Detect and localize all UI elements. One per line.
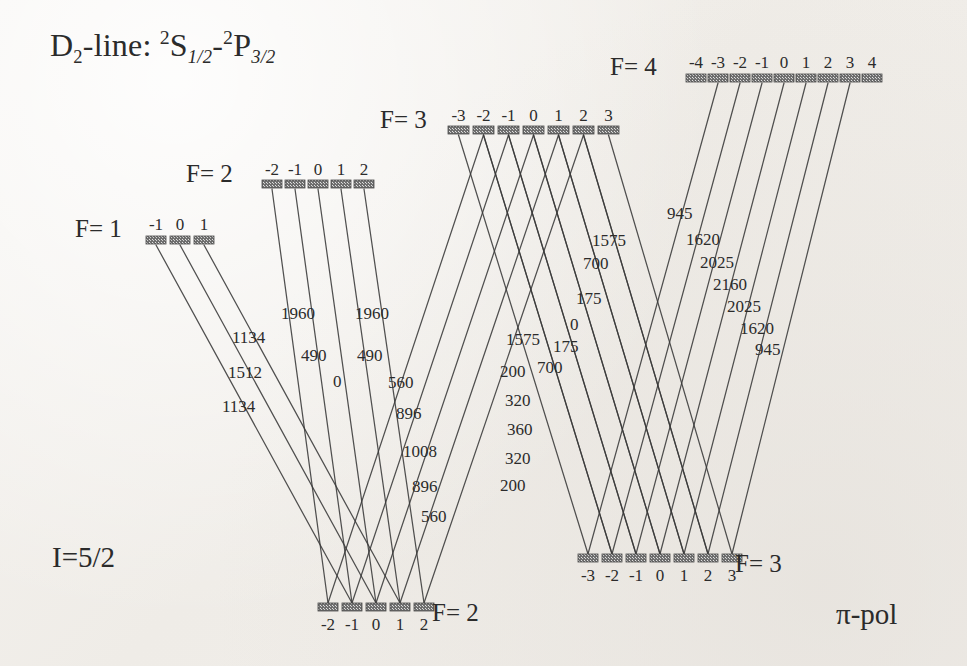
sublevel-m-label-lower-f3--2: -2 xyxy=(605,567,619,584)
transition-strength-f4-to-f3-0: 2160 xyxy=(713,276,747,293)
transition-strength-f3-to-f3-inner-1: 320 xyxy=(505,450,531,467)
sublevel-m-label-lower-f3-3: 3 xyxy=(728,567,737,584)
magnetic-sublevel-bar[interactable] xyxy=(598,126,619,134)
magnetic-sublevel-bar[interactable] xyxy=(774,74,794,82)
transition-strength-f2-to-f2--1: 490 xyxy=(301,347,327,364)
magnetic-sublevel-bar[interactable] xyxy=(818,74,838,82)
sublevel-m-label-lower-f2--1: -1 xyxy=(345,616,359,633)
level-label-upper-f2: F= 2 xyxy=(186,161,233,186)
magnetic-sublevel-bar[interactable] xyxy=(578,554,598,562)
sublevel-m-label-upper-f1-1: 1 xyxy=(200,216,209,233)
transition-strength-f3-to-f3-0: 0 xyxy=(570,316,579,333)
sublevel-m-label-lower-f3--1: -1 xyxy=(629,567,643,584)
sublevel-m-label-upper-f3--3: -3 xyxy=(451,107,465,124)
sublevel-m-label-lower-f2-0: 0 xyxy=(372,616,381,633)
level-label-upper-f4: F= 4 xyxy=(610,54,657,79)
transition-strength-f3-to-f3-inner--1: 320 xyxy=(505,392,531,409)
sublevel-m-label-upper-f4-2: 2 xyxy=(824,54,833,71)
magnetic-sublevel-bar[interactable] xyxy=(602,554,622,562)
transition-strength-f4-to-f3--3: 945 xyxy=(667,205,693,222)
magnetic-sublevel-bar[interactable] xyxy=(708,74,728,82)
sublevel-m-label-upper-f4--2: -2 xyxy=(733,54,747,71)
transition-line xyxy=(180,245,376,603)
magnetic-sublevel-bar[interactable] xyxy=(752,74,772,82)
magnetic-sublevel-bar[interactable] xyxy=(698,554,718,562)
sublevel-m-label-lower-f2--2: -2 xyxy=(321,616,335,633)
transition-strength-f3-to-f3-1: 175 xyxy=(576,290,602,307)
magnetic-sublevel-bar[interactable] xyxy=(573,126,594,134)
magnetic-sublevel-bar[interactable] xyxy=(523,126,544,134)
transition-line xyxy=(352,135,509,603)
magnetic-sublevel-bar[interactable] xyxy=(331,180,351,188)
transition-strength-f3-to-f2-1: 896 xyxy=(412,478,438,495)
sublevel-m-label-upper-f3--2: -2 xyxy=(476,107,490,124)
transition-strength-f1-to-f2--1: 1134 xyxy=(232,329,265,346)
magnetic-sublevel-bar[interactable] xyxy=(862,74,882,82)
transition-line xyxy=(400,135,559,603)
magnetic-sublevel-bar[interactable] xyxy=(414,603,434,611)
sublevel-m-label-upper-f4-3: 3 xyxy=(846,54,855,71)
sublevel-m-label-upper-f4--3: -3 xyxy=(711,54,725,71)
level-label-upper-f3: F= 3 xyxy=(380,107,427,132)
transition-line xyxy=(272,189,328,603)
sublevel-m-label-upper-f2-0: 0 xyxy=(314,161,323,178)
transition-line xyxy=(295,189,352,603)
transition-strength-f3-to-f2-2: 560 xyxy=(421,508,447,525)
magnetic-sublevel-bar[interactable] xyxy=(308,180,328,188)
magnetic-sublevel-bar[interactable] xyxy=(318,603,338,611)
magnetic-sublevel-bar[interactable] xyxy=(498,126,519,134)
magnetic-sublevel-bar[interactable] xyxy=(650,554,670,562)
transition-strength-f3-to-f2-0: 1008 xyxy=(403,443,437,460)
sublevel-m-label-upper-f4-4: 4 xyxy=(868,54,877,71)
magnetic-sublevel-bar[interactable] xyxy=(674,554,694,562)
magnetic-sublevel-bar[interactable] xyxy=(686,74,706,82)
magnetic-sublevel-bar[interactable] xyxy=(285,180,305,188)
sublevel-m-label-upper-f3-3: 3 xyxy=(604,107,613,124)
sublevel-m-label-lower-f3-2: 2 xyxy=(704,567,713,584)
sublevel-m-label-upper-f1--1: -1 xyxy=(149,216,163,233)
level-label-lower-f3: F= 3 xyxy=(735,551,782,576)
sublevel-m-label-upper-f3--1: -1 xyxy=(501,107,515,124)
magnetic-sublevel-bar[interactable] xyxy=(730,74,750,82)
transition-strength-f3-to-f3-inner-2: 200 xyxy=(500,477,526,494)
sublevel-m-label-upper-f3-0: 0 xyxy=(529,107,538,124)
transition-strength-f3-to-f2--1: 896 xyxy=(396,405,422,422)
sublevel-m-label-upper-f4--1: -1 xyxy=(755,54,769,71)
sublevel-m-label-upper-f3-2: 2 xyxy=(579,107,588,124)
sublevel-m-label-upper-f4--4: -4 xyxy=(689,54,703,71)
magnetic-sublevel-bar[interactable] xyxy=(796,74,816,82)
transition-strength-f4-to-f3--2: 1620 xyxy=(686,231,720,248)
sublevel-m-label-lower-f2-2: 2 xyxy=(420,616,429,633)
transition-strength-f1-to-f2-1: 1134 xyxy=(222,398,255,415)
transition-strength-f3-to-f3--1: 175 xyxy=(553,338,579,355)
magnetic-sublevel-bar[interactable] xyxy=(448,126,469,134)
sublevel-m-label-lower-f3-0: 0 xyxy=(656,567,665,584)
magnetic-sublevel-bar[interactable] xyxy=(840,74,860,82)
level-label-upper-f1: F= 1 xyxy=(75,216,122,241)
magnetic-sublevel-bar[interactable] xyxy=(354,180,374,188)
sublevel-m-label-upper-f2-1: 1 xyxy=(337,161,346,178)
magnetic-sublevel-bar[interactable] xyxy=(366,603,386,611)
magnetic-sublevel-bar[interactable] xyxy=(342,603,362,611)
sublevel-m-label-upper-f2--2: -2 xyxy=(265,161,279,178)
magnetic-sublevel-bar[interactable] xyxy=(548,126,569,134)
magnetic-sublevel-bar[interactable] xyxy=(170,236,190,244)
transition-line xyxy=(609,135,733,554)
magnetic-sublevel-bar[interactable] xyxy=(473,126,494,134)
energy-level-diagram xyxy=(0,0,967,666)
transition-strength-f3-to-f2--2: 560 xyxy=(388,374,414,391)
magnetic-sublevel-bar[interactable] xyxy=(194,236,214,244)
transition-strength-f3-to-f3-3: 1575 xyxy=(592,232,626,249)
magnetic-sublevel-bar[interactable] xyxy=(390,603,410,611)
sublevel-m-label-lower-f3-1: 1 xyxy=(680,567,689,584)
transition-strength-f4-to-f3-1: 2025 xyxy=(727,298,761,315)
sublevel-m-label-upper-f4-1: 1 xyxy=(802,54,811,71)
magnetic-sublevel-bar[interactable] xyxy=(262,180,282,188)
transition-strength-f3-to-f3--2: 700 xyxy=(537,359,563,376)
transition-strength-f3-to-f3--3: 1575 xyxy=(506,331,540,348)
sublevel-m-label-upper-f1-0: 0 xyxy=(176,216,185,233)
transition-line xyxy=(341,189,400,603)
transition-strength-f4-to-f3--1: 2025 xyxy=(700,254,734,271)
magnetic-sublevel-bar[interactable] xyxy=(626,554,646,562)
magnetic-sublevel-bar[interactable] xyxy=(146,236,166,244)
